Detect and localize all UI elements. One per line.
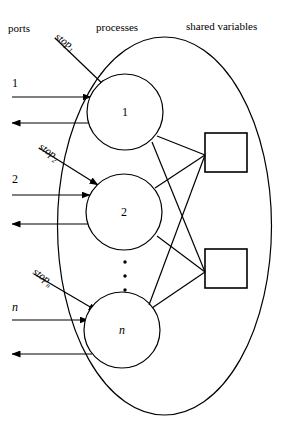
system-diagram-svg bbox=[0, 0, 289, 433]
process-label-n: n bbox=[112, 323, 132, 338]
ellipsis-dot-2 bbox=[123, 274, 126, 277]
header-ports: ports bbox=[8, 22, 30, 34]
shared-variable-box-1 bbox=[205, 133, 247, 172]
header-shared-variables: shared variables bbox=[186, 20, 257, 32]
link-processn-sharedvar2 bbox=[152, 272, 205, 308]
ellipsis-dot-3 bbox=[123, 288, 126, 291]
link-process2-sharedvar1 bbox=[155, 155, 205, 188]
port-label-n: n bbox=[12, 300, 18, 315]
shared-variable-box-2 bbox=[205, 249, 247, 288]
port-label-1: 1 bbox=[12, 76, 18, 91]
diagram-canvas: ports processes shared variables 1 2 n 1… bbox=[0, 0, 289, 433]
header-processes: processes bbox=[96, 21, 138, 33]
ellipsis-dot-1 bbox=[123, 260, 126, 263]
port-label-2: 2 bbox=[12, 172, 18, 187]
process-label-2: 2 bbox=[114, 205, 134, 220]
process-label-1: 1 bbox=[115, 105, 135, 120]
link-process1-sharedvar1 bbox=[157, 136, 205, 155]
